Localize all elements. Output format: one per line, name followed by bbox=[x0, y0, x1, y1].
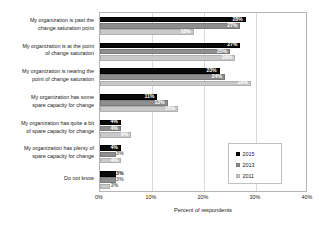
legend-item-2013: 2013 bbox=[236, 159, 281, 170]
category-label: Do not know bbox=[0, 175, 94, 183]
bar-value-label: 2% bbox=[111, 184, 118, 189]
bar-row: 23% bbox=[100, 68, 306, 74]
bar-value-label: 26% bbox=[222, 55, 232, 60]
bar-value-label: 13% bbox=[155, 100, 165, 105]
bar-value-label: 15% bbox=[165, 107, 175, 112]
bar-row: 13% bbox=[100, 100, 306, 106]
bar-group: 28%27%18% bbox=[100, 13, 306, 39]
bar-row: 24% bbox=[100, 74, 306, 80]
legend-swatch-icon bbox=[236, 163, 240, 167]
legend-swatch-icon bbox=[236, 152, 240, 156]
x-tick-label: 0% bbox=[95, 194, 103, 200]
bar-value-label: 11% bbox=[144, 94, 154, 99]
bar-value-label: 4% bbox=[110, 158, 117, 163]
legend-swatch-icon bbox=[236, 174, 240, 178]
bar-row: 4% bbox=[100, 120, 306, 126]
legend: 201520132011 bbox=[228, 143, 282, 184]
category-label: My organization has plenty of spare capa… bbox=[0, 146, 94, 162]
bar-2015-3: 11% bbox=[100, 94, 157, 100]
bar-value-label: 18% bbox=[181, 29, 191, 34]
bar-2015-0: 28% bbox=[100, 17, 246, 23]
bar-2013-1: 25% bbox=[100, 49, 230, 55]
bar-row: 27% bbox=[100, 23, 306, 29]
category-label: My organization is nearing the point of … bbox=[0, 68, 94, 84]
bar-chart: My organization is past the change satur… bbox=[0, 0, 319, 231]
bar-2011-1: 26% bbox=[100, 55, 235, 61]
bar-value-label: 4% bbox=[110, 126, 117, 131]
bar-2011-0: 18% bbox=[100, 29, 194, 35]
legend-item-2015: 2015 bbox=[236, 148, 281, 159]
bar-row: 25% bbox=[100, 49, 306, 55]
bar-2015-2: 23% bbox=[100, 68, 220, 74]
bar-group: 27%25%26% bbox=[100, 39, 306, 65]
bar-value-label: 24% bbox=[212, 75, 222, 80]
bar-group: 23%24%29% bbox=[100, 64, 306, 90]
x-tick-label: 30% bbox=[250, 194, 261, 200]
bar-2011-2: 29% bbox=[100, 81, 251, 87]
category-label: My organization is past the change satur… bbox=[0, 17, 94, 33]
bar-row: 11% bbox=[100, 94, 306, 100]
legend-label: 2011 bbox=[243, 173, 255, 179]
bar-row: 28% bbox=[100, 17, 306, 23]
legend-item-2011: 2011 bbox=[236, 170, 281, 181]
bar-row: 15% bbox=[100, 106, 306, 112]
bar-2011-4: 6% bbox=[100, 132, 131, 138]
category-label: My organization is at the point of chang… bbox=[0, 43, 94, 59]
x-tick-label: 40% bbox=[302, 194, 313, 200]
bar-row: 2% bbox=[100, 184, 306, 190]
legend-label: 2013 bbox=[243, 162, 255, 168]
bar-2011-6: 2% bbox=[100, 184, 110, 190]
bar-group: 11%13%15% bbox=[100, 90, 306, 116]
bar-2013-4: 4% bbox=[100, 126, 121, 132]
bar-2013-3: 13% bbox=[100, 100, 168, 106]
bar-value-label: 27% bbox=[227, 23, 237, 28]
bar-2013-0: 27% bbox=[100, 23, 240, 29]
bar-value-label: 6% bbox=[121, 132, 128, 137]
category-label: My organization has quite a bit of spare… bbox=[0, 120, 94, 136]
bar-2011-5: 4% bbox=[100, 158, 121, 164]
category-label: My organization has some spare capacity … bbox=[0, 94, 94, 110]
x-tick-label: 10% bbox=[146, 194, 157, 200]
bar-row: 29% bbox=[100, 81, 306, 87]
bar-row: 18% bbox=[100, 29, 306, 35]
legend-label: 2015 bbox=[243, 151, 255, 157]
x-axis-ticks: 0%10%20%30%40% bbox=[99, 194, 307, 204]
bar-2015-6: 3% bbox=[100, 171, 116, 177]
bar-row: 6% bbox=[100, 132, 306, 138]
bar-row: 27% bbox=[100, 43, 306, 49]
bar-row: 26% bbox=[100, 55, 306, 61]
bar-value-label: 27% bbox=[227, 43, 237, 48]
bar-row: 4% bbox=[100, 126, 306, 132]
x-tick-label: 20% bbox=[198, 194, 209, 200]
bar-2011-3: 15% bbox=[100, 106, 178, 112]
bar-value-label: 29% bbox=[238, 81, 248, 86]
bar-2013-2: 24% bbox=[100, 74, 225, 80]
category-axis-labels: My organization is past the change satur… bbox=[0, 12, 96, 192]
bar-group: 4%4%6% bbox=[100, 116, 306, 142]
x-axis-title: Percent of respondents bbox=[99, 207, 307, 213]
